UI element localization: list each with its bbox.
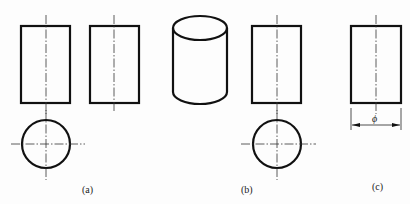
- label-c: (c): [372, 181, 383, 193]
- cylinder-top-ellipse: [173, 16, 227, 40]
- panel-c: ϕ (c): [351, 15, 401, 193]
- cylinder-bottom-arc: [173, 92, 227, 104]
- front-view-rect-b: [252, 26, 301, 103]
- side-view-rect-a: [90, 26, 139, 103]
- front-view-rect-a: [21, 26, 70, 103]
- label-b: (b): [241, 184, 253, 196]
- arrowhead-right-icon: [392, 123, 400, 127]
- label-a: (a): [82, 184, 93, 196]
- diameter-symbol: ϕ: [372, 113, 377, 124]
- arrowhead-left-icon: [352, 123, 360, 127]
- panel-a: (a): [11, 15, 139, 196]
- drawing-canvas: (a) (b) ϕ (c): [0, 0, 410, 204]
- panel-b: (b): [173, 15, 316, 196]
- technical-drawing: (a) (b) ϕ (c): [0, 0, 410, 204]
